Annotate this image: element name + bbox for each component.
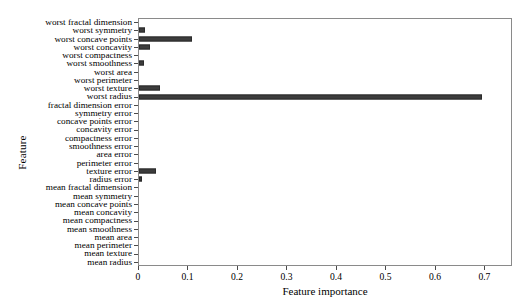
y-tick-label: compactness error xyxy=(65,134,132,142)
y-tick-mark xyxy=(134,212,138,213)
bar-row xyxy=(138,76,512,84)
y-tick-label: radius error xyxy=(89,175,132,183)
bar-row xyxy=(138,109,512,117)
bar-row xyxy=(138,241,512,249)
bar-row xyxy=(138,101,512,109)
bar-row xyxy=(138,35,512,43)
bar-row xyxy=(138,92,512,100)
bar xyxy=(139,86,160,91)
y-tick-label: mean texture xyxy=(84,249,132,257)
y-tick-mark xyxy=(134,245,138,246)
y-tick-label: mean smoothness xyxy=(67,225,132,233)
x-axis-title: Feature importance xyxy=(138,285,512,297)
y-tick-mark xyxy=(134,138,138,139)
bar-row xyxy=(138,175,512,183)
bar-row xyxy=(138,200,512,208)
y-tick-label: worst texture xyxy=(84,84,132,92)
y-tick-mark xyxy=(134,113,138,114)
y-tick-label: worst smoothness xyxy=(66,59,132,67)
y-tick-label: worst radius xyxy=(87,92,132,100)
y-tick-mark xyxy=(134,88,138,89)
bar-row xyxy=(138,18,512,26)
y-tick-mark xyxy=(134,171,138,172)
bar-row xyxy=(138,84,512,92)
y-tick-mark xyxy=(134,72,138,73)
y-tick-label: worst concave points xyxy=(54,35,132,43)
y-tick-mark xyxy=(134,146,138,147)
y-tick-mark xyxy=(134,187,138,188)
x-tick-label: 0.5 xyxy=(379,271,391,282)
bar xyxy=(139,44,150,49)
y-tick-mark xyxy=(134,154,138,155)
y-tick-label: worst area xyxy=(94,68,132,76)
y-tick-label: worst compactness xyxy=(62,51,132,59)
y-tick-mark xyxy=(134,22,138,23)
bar xyxy=(139,94,482,99)
feature-importance-chart: Feature mean radiusmean texturemean peri… xyxy=(0,0,525,305)
bar-row xyxy=(138,125,512,133)
y-tick-mark xyxy=(134,163,138,164)
y-tick-mark xyxy=(134,30,138,31)
y-tick-mark xyxy=(134,229,138,230)
x-tick-label: 0.7 xyxy=(478,271,490,282)
x-tick-label: 0.4 xyxy=(330,271,342,282)
bar xyxy=(139,177,142,182)
x-tick-mark xyxy=(286,266,287,270)
y-tick-label: concavity error xyxy=(76,125,132,133)
bar xyxy=(139,168,156,173)
x-tick-mark xyxy=(484,266,485,270)
x-tick-label: 0 xyxy=(136,271,141,282)
x-tick-label: 0.3 xyxy=(280,271,292,282)
x-tick-mark xyxy=(187,266,188,270)
y-tick-label: worst symmetry xyxy=(73,26,132,34)
y-tick-mark xyxy=(134,262,138,263)
bar-row xyxy=(138,134,512,142)
bar-row xyxy=(138,51,512,59)
y-tick-label: worst concavity xyxy=(74,43,132,51)
bar xyxy=(139,36,192,41)
y-tick-label: texture error xyxy=(86,167,132,175)
y-tick-label: mean concavity xyxy=(74,208,132,216)
bar-row xyxy=(138,26,512,34)
y-tick-label: mean area xyxy=(95,233,133,241)
y-tick-label: mean compactness xyxy=(63,216,132,224)
y-axis-tick-labels: mean radiusmean texturemean perimetermea… xyxy=(0,18,132,266)
y-tick-label: worst perimeter xyxy=(74,76,132,84)
y-tick-mark xyxy=(134,105,138,106)
bar-row xyxy=(138,233,512,241)
bar-row xyxy=(138,258,512,266)
y-tick-label: area error xyxy=(97,150,132,158)
bar-row xyxy=(138,159,512,167)
y-tick-mark xyxy=(134,221,138,222)
bar xyxy=(139,28,145,33)
bar-row xyxy=(138,225,512,233)
y-tick-mark xyxy=(134,179,138,180)
x-tick-label: 0.6 xyxy=(429,271,441,282)
y-tick-mark xyxy=(134,39,138,40)
bar-row xyxy=(138,208,512,216)
bar-row xyxy=(138,43,512,51)
x-tick-label: 0.1 xyxy=(181,271,193,282)
y-tick-label: smoothness error xyxy=(69,142,132,150)
x-tick-label: 0.2 xyxy=(231,271,243,282)
y-tick-label: worst fractal dimension xyxy=(45,18,132,26)
bar-row xyxy=(138,142,512,150)
y-tick-mark xyxy=(134,97,138,98)
bar-row xyxy=(138,150,512,158)
bar-row xyxy=(138,68,512,76)
bar-row xyxy=(138,183,512,191)
y-tick-label: concave points error xyxy=(57,117,132,125)
bar-row xyxy=(138,216,512,224)
y-tick-mark xyxy=(134,130,138,131)
y-tick-label: perimeter error xyxy=(77,159,132,167)
y-tick-mark xyxy=(134,196,138,197)
y-tick-mark xyxy=(134,47,138,48)
x-tick-mark xyxy=(237,266,238,270)
y-tick-mark xyxy=(134,55,138,56)
y-tick-label: mean concave points xyxy=(55,200,132,208)
x-tick-mark xyxy=(435,266,436,270)
y-tick-label: fractal dimension error xyxy=(48,101,132,109)
bar-row xyxy=(138,59,512,67)
y-tick-label: mean radius xyxy=(87,258,132,266)
bar-row xyxy=(138,117,512,125)
